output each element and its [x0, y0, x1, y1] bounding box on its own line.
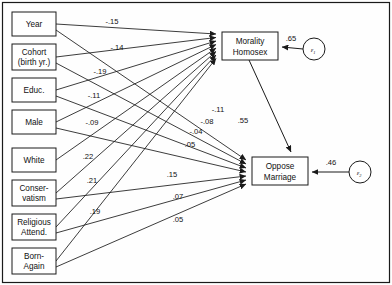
box-label-conservatism-1: Conser-	[19, 184, 48, 193]
coef-cohort-morality: -.14	[110, 43, 123, 52]
error-circle-e1[interactable]	[303, 38, 325, 60]
box-label-relattend-1: Religious	[17, 218, 51, 227]
coef-male-oppose: .05	[185, 140, 196, 149]
coef-relattend-morality: .21	[87, 176, 98, 185]
coef-educ-morality: -.19	[93, 67, 106, 76]
box-label-bornagain-2: Again	[24, 262, 45, 271]
coef-bornagain-morality: .19	[90, 207, 101, 216]
box-label-relattend-2: Attend.	[21, 228, 47, 237]
box-label-bornagain-1: Born-	[24, 252, 44, 261]
coef-white-morality: -.09	[85, 118, 98, 127]
box-label-cohort-2: (birth yr.)	[18, 58, 51, 67]
coef-year-oppose: -.11	[212, 105, 225, 114]
box-label-oppose-2: Marriage	[264, 173, 297, 182]
coef-conservatism-oppose: .15	[167, 170, 178, 179]
coef-bornagain-oppose: .05	[173, 215, 184, 224]
coef-educ-oppose: -.04	[189, 127, 202, 136]
box-label-morality-1: Morality	[236, 37, 266, 46]
box-label-year: Year	[26, 20, 43, 29]
coef-male-morality: -.11	[88, 91, 101, 100]
coef-relattend-oppose: .07	[173, 192, 184, 201]
box-label-white: White	[24, 156, 45, 165]
coef-year-morality: -.15	[105, 17, 118, 26]
coef-e1: .65	[286, 34, 297, 43]
structural-path-morality-to-oppose	[249, 60, 291, 152]
box-label-male: Male	[25, 118, 43, 127]
path-diagram-svg: Year Cohort (birth yr.) Educ. Male White…	[0, 0, 392, 285]
box-label-conservatism-2: vatism	[22, 194, 46, 203]
error-circle-e2[interactable]	[349, 161, 371, 183]
coef-e2: .46	[326, 158, 337, 167]
diagram-canvas: Year Cohort (birth yr.) Educ. Male White…	[0, 0, 392, 285]
diagram-frame	[3, 3, 390, 283]
paths-to-oppose	[56, 30, 246, 267]
coef-conservatism-morality: .22	[83, 152, 94, 161]
error-path-e1	[282, 47, 303, 49]
box-label-educ: Educ.	[24, 86, 45, 95]
box-label-oppose-1: Oppose	[266, 162, 295, 171]
coef-morality-oppose: .55	[238, 116, 249, 125]
box-label-cohort-1: Cohort	[22, 48, 47, 57]
box-label-morality-2: Homosex	[233, 48, 268, 57]
coef-cohort-oppose: -.08	[200, 117, 213, 126]
